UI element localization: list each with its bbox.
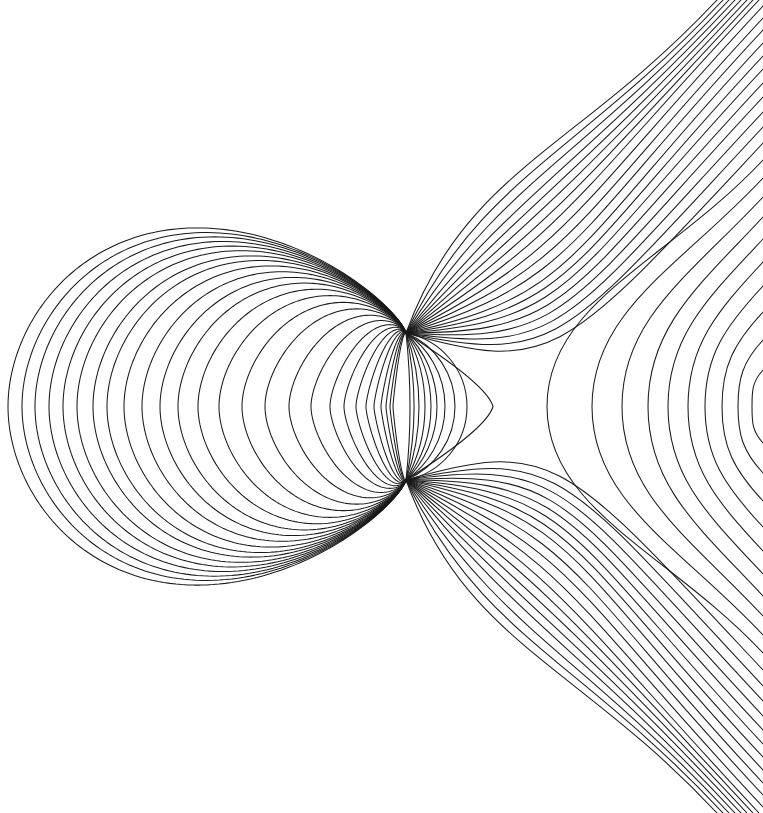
- field-line-plot: [0, 0, 763, 813]
- diagram-canvas: [0, 0, 763, 813]
